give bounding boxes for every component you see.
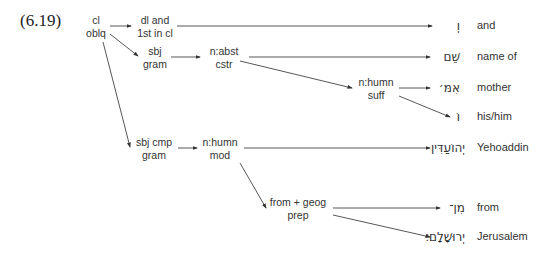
leaf-hebrew: אִמּ׳: [400, 81, 460, 95]
node-line1: cl: [86, 14, 106, 27]
edge-root-sbjcmp: [103, 42, 130, 147]
edge-abst-humnsuff: [240, 61, 352, 88]
leaf-gloss: his/him: [477, 110, 512, 122]
node-line2: 1st in cl: [137, 27, 173, 40]
node-line2: cstr: [210, 58, 239, 71]
node-line1: sbj cmp: [136, 136, 172, 149]
node-line1: sbj: [143, 45, 167, 58]
leaf-hebrew: וְ: [400, 19, 460, 33]
node-line2: oblq: [86, 27, 106, 40]
node-line1: dl and: [137, 14, 173, 27]
leaf-gloss: Yehoaddin: [477, 141, 529, 153]
edge-humnmod-fromgeog: [240, 163, 266, 208]
leaf-hebrew: מִן־: [405, 201, 465, 215]
node-line2: suff: [358, 89, 393, 102]
leaf-hebrew: יְרוּשָׁלָם׃: [405, 230, 465, 244]
leaf-gloss: mother: [477, 81, 511, 93]
leaf-hebrew: וֹ: [400, 110, 460, 124]
node-sbj-gram: sbj gram: [143, 45, 167, 70]
node-from-geog-prep: from + geog prep: [270, 196, 326, 221]
node-line1: n:humn: [202, 136, 237, 149]
node-n-abst-cstr: n:abst cstr: [210, 45, 239, 70]
node-cl-oblq: cl oblq: [86, 14, 106, 39]
node-n-humn-mod: n:humn mod: [202, 136, 237, 161]
node-line2: prep: [270, 209, 326, 222]
node-line1: n:humn: [358, 76, 393, 89]
node-line1: n:abst: [210, 45, 239, 58]
leaf-gloss: from: [477, 201, 499, 213]
leaf-gloss: and: [477, 19, 495, 31]
leaf-hebrew: יְהוֹעַדִּין: [405, 141, 465, 155]
edge-root-sbj: [110, 34, 138, 56]
node-line2: gram: [143, 58, 167, 71]
leaf-hebrew: שֵׁם: [400, 50, 460, 64]
leaf-gloss: name of: [477, 50, 517, 62]
node-line2: mod: [202, 149, 237, 162]
leaf-gloss: Jerusalem: [477, 230, 528, 242]
node-n-humn-suff: n:humn suff: [358, 76, 393, 101]
node-dl-and: dl and 1st in cl: [137, 14, 173, 39]
node-sbj-cmp-gram: sbj cmp gram: [136, 136, 172, 161]
node-line1: from + geog: [270, 196, 326, 209]
node-line2: gram: [136, 149, 172, 162]
